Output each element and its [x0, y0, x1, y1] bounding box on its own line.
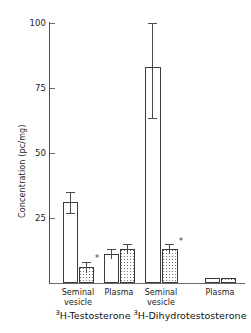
significance-star-1: *: [95, 255, 99, 262]
group-label-text: H-Testosterone: [60, 310, 131, 321]
error-bar-g1-seminal-stippled: [86, 262, 87, 273]
error-bar-g1-plasma-stippled: [127, 244, 128, 254]
x-label-g2-seminal-vesicle: Seminal vesicle: [137, 288, 185, 307]
chart-figure: 100 75 50 25 Concentration (pc/mg) * * S…: [0, 0, 251, 333]
error-cap-bottom-g2-seminal-open: [148, 118, 157, 119]
bar-g1-seminal-open: [63, 202, 78, 283]
y-tick-50: [50, 153, 55, 154]
bar-g2-plasma-open: [205, 278, 220, 283]
y-tick-100: [50, 23, 55, 24]
x-label-line2: vesicle: [137, 298, 185, 308]
x-label-line1: Plasma: [96, 288, 142, 298]
x-label-g1-seminal-vesicle: Seminal vesicle: [54, 288, 102, 307]
error-bar-g2-seminal-open: [152, 23, 153, 119]
error-cap-top-g2-seminal-stippled: [165, 244, 174, 245]
y-tick-label-100: 100: [20, 19, 46, 27]
bar-g1-plasma-stippled: [120, 249, 135, 283]
x-label-line1: Seminal: [54, 288, 102, 298]
x-label-g2-plasma: Plasma: [197, 288, 243, 298]
x-label-line2: vesicle: [54, 298, 102, 308]
bar-g2-seminal-stippled: [162, 249, 178, 283]
y-tick-label-75: 75: [20, 84, 46, 92]
group-label-dihydrotestosterone: 3H-Dihydrotestosterone: [131, 310, 249, 321]
x-label-line1: Seminal: [137, 288, 185, 298]
significance-star-2: *: [179, 238, 183, 245]
bar-g2-plasma-stippled: [221, 278, 236, 283]
error-cap-top-g1-seminal-open: [66, 192, 75, 193]
group-label-text: H-Dihydrotestosterone: [138, 310, 247, 321]
x-label-line1: Plasma: [197, 288, 243, 298]
error-cap-top-g1-plasma-stippled: [123, 244, 132, 245]
x-label-g1-plasma: Plasma: [96, 288, 142, 298]
error-cap-top-g1-seminal-stippled: [82, 262, 91, 263]
bar-g2-seminal-open: [145, 67, 161, 283]
y-tick-25: [50, 218, 55, 219]
y-axis-title: Concentration (pc/mg): [18, 124, 27, 218]
error-cap-top-g2-seminal-open: [148, 23, 157, 24]
y-tick-75: [50, 88, 55, 89]
x-axis-line: [49, 283, 245, 284]
error-cap-top-g1-plasma-open: [107, 249, 116, 250]
error-bar-g2-seminal-stippled: [169, 244, 170, 254]
error-bar-g1-seminal-open: [70, 192, 71, 214]
error-cap-bottom-g1-seminal-open: [66, 213, 75, 214]
error-bar-g1-plasma-open: [111, 249, 112, 259]
